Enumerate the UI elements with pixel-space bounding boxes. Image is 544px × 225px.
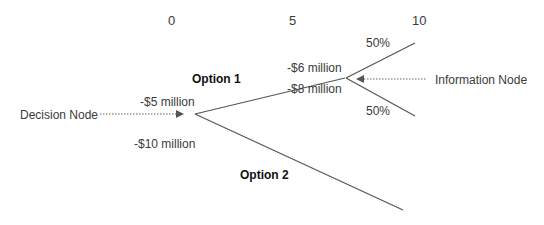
axis-tick-0: 0 [168,13,175,28]
option1-label: Option 1 [192,72,241,86]
information-arrow-icon [356,75,364,83]
axis-tick-10: 10 [412,13,426,28]
lower-probability: 50% [366,104,390,118]
outcome-low-cost: -$8 million [287,82,342,96]
decision-node-label: Decision Node [20,108,98,122]
option2-label: Option 2 [240,168,289,182]
outcome-high-cost: -$6 million [287,61,342,75]
upper-probability: 50% [366,36,390,50]
axis-tick-5: 5 [289,13,296,28]
option2-cost: -$10 million [134,137,195,151]
option2-branch [195,114,403,210]
decision-arrow-icon [176,110,184,118]
information-node-label: Information Node [435,73,527,87]
option1-cost: -$5 million [140,95,195,109]
